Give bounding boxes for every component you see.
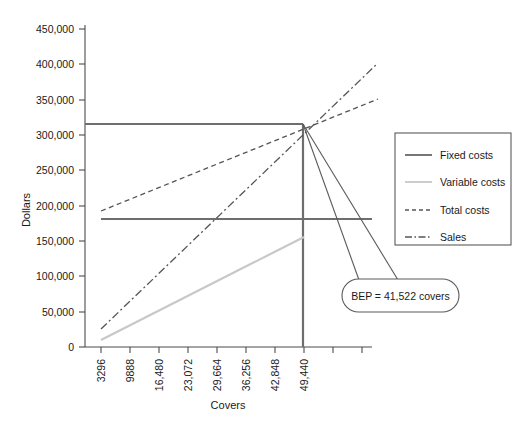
y-tick-label-200000: 200,000 xyxy=(36,200,74,212)
breakeven-chart: 450,000 400,000 350,000 300,000 250,000 … xyxy=(0,0,528,422)
x-tick-label-49440: 49,440 xyxy=(298,359,310,391)
series-group xyxy=(101,63,378,340)
x-tick-label-9888: 9888 xyxy=(124,359,136,383)
bep-callout-label: BEP = 41,522 covers xyxy=(351,290,450,302)
y-tick-label-300000: 300,000 xyxy=(36,129,74,141)
x-tick-label-16480: 16,480 xyxy=(153,359,165,391)
y-tick-label-100000: 100,000 xyxy=(36,270,74,282)
y-tick-labels: 450,000 400,000 350,000 300,000 250,000 … xyxy=(36,23,74,353)
y-tick-marks xyxy=(79,29,85,347)
callout-leader-group xyxy=(303,124,398,280)
legend-label-sales: Sales xyxy=(440,231,466,243)
legend-label-fixed-costs: Fixed costs xyxy=(440,149,493,161)
x-tick-label-36256: 36,256 xyxy=(240,359,252,391)
x-tick-labels: 3296 9888 16,480 23,072 29,664 36,256 42… xyxy=(95,359,310,391)
x-tick-label-29664: 29,664 xyxy=(211,359,223,391)
y-tick-label-450000: 450,000 xyxy=(36,23,74,35)
x-tick-label-23072: 23,072 xyxy=(182,359,194,391)
y-axis-title: Dollars xyxy=(20,192,32,227)
y-tick-label-400000: 400,000 xyxy=(36,58,74,70)
x-tick-label-42848: 42,848 xyxy=(269,359,281,391)
y-tick-label-50000: 50,000 xyxy=(42,306,74,318)
bep-callout[interactable]: BEP = 41,522 covers xyxy=(342,279,459,312)
y-tick-label-150000: 150,000 xyxy=(36,235,74,247)
y-tick-label-250000: 250,000 xyxy=(36,164,74,176)
axis-group xyxy=(85,25,372,347)
legend-label-variable-costs: Variable costs xyxy=(440,176,505,188)
y-tick-label-350000: 350,000 xyxy=(36,94,74,106)
chart-legend: Fixed costs Variable costs Total costs S… xyxy=(395,133,511,245)
x-tick-marks xyxy=(101,347,362,353)
legend-label-total-costs: Total costs xyxy=(440,204,490,216)
chart-figure: 450,000 400,000 350,000 300,000 250,000 … xyxy=(0,0,528,422)
y-tick-label-0: 0 xyxy=(68,341,74,353)
series-line-total-costs xyxy=(101,99,378,211)
series-line-variable-costs xyxy=(101,237,304,340)
series-line-sales xyxy=(101,63,378,329)
x-axis-title: Covers xyxy=(211,399,246,411)
x-tick-label-3296: 3296 xyxy=(95,359,107,383)
